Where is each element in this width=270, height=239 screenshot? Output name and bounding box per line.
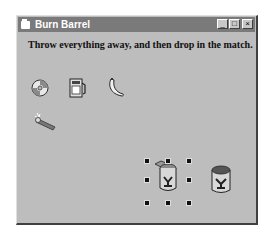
barrel-closed-item[interactable]	[210, 164, 232, 200]
banana-icon	[106, 77, 126, 99]
resize-handle-se[interactable]	[186, 200, 192, 206]
close-button[interactable]: ×	[242, 19, 253, 29]
gas-pump-icon	[68, 77, 88, 99]
banana-item[interactable]	[106, 77, 126, 103]
title-bar[interactable]: Burn Barrel _ □ ×	[18, 17, 255, 32]
minimize-button[interactable]: _	[217, 19, 228, 29]
window-title: Burn Barrel	[35, 19, 90, 30]
barrel-open-item[interactable]	[153, 160, 179, 198]
gas-pump-item[interactable]	[68, 77, 88, 103]
burn-barrel-window: Burn Barrel _ □ × Throw everything away,…	[16, 15, 258, 225]
resize-handle-sw[interactable]	[144, 200, 150, 206]
resize-handle-s[interactable]	[165, 200, 171, 206]
folder-icon	[21, 21, 30, 29]
cd-item[interactable]	[31, 79, 49, 101]
resize-handle-e[interactable]	[186, 177, 192, 183]
resize-handle-nw[interactable]	[144, 158, 150, 164]
maximize-button[interactable]: □	[229, 19, 240, 29]
barrel-closed-icon	[210, 164, 232, 196]
form-design-surface: Throw everything away, and then drop in …	[20, 34, 253, 220]
resize-handle-n[interactable]	[165, 158, 171, 164]
barrel-open-icon	[153, 160, 179, 194]
resize-handle-ne[interactable]	[186, 158, 192, 164]
match-icon	[33, 111, 57, 133]
cd-icon	[31, 79, 49, 97]
instruction-label: Throw everything away, and then drop in …	[28, 39, 254, 50]
resize-handle-w[interactable]	[144, 177, 150, 183]
match-item[interactable]	[33, 111, 57, 137]
